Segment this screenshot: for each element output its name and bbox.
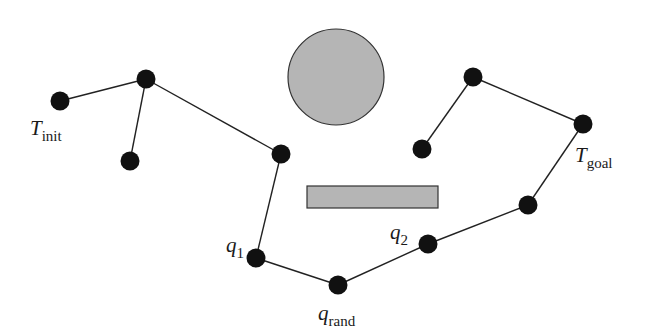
tree-edge — [256, 154, 281, 258]
tree-edge — [428, 205, 528, 244]
rrt-diagram: Tinit Tgoal q1 q2 qrand — [0, 0, 647, 333]
label-main: q — [318, 301, 329, 325]
label-t-init: Tinit — [30, 118, 62, 139]
label-main: T — [30, 116, 42, 140]
obstacles — [288, 29, 438, 208]
label-q2: q2 — [390, 222, 408, 243]
rect-obstacle — [307, 186, 438, 208]
label-sub: 1 — [237, 245, 245, 261]
label-sub: init — [42, 128, 62, 144]
tree-node-n3 — [272, 145, 291, 164]
tree-edge — [422, 77, 473, 149]
label-main: q — [226, 233, 237, 257]
label-q-rand: qrand — [318, 303, 355, 324]
tree-node-n8 — [574, 115, 593, 134]
tree-node-qrand — [329, 276, 348, 295]
tree-node-n7 — [519, 196, 538, 215]
tree-edge — [473, 77, 583, 124]
tree-node-q1 — [247, 249, 266, 268]
label-t-goal: Tgoal — [575, 145, 613, 166]
tree-edge — [338, 244, 428, 285]
label-main: q — [390, 220, 401, 244]
diagram-graphics — [0, 0, 647, 333]
tree-node-n10 — [413, 140, 432, 159]
tree-edge — [130, 79, 146, 161]
label-main: T — [575, 143, 587, 167]
tree-edge — [146, 79, 281, 154]
tree-node-q2 — [419, 235, 438, 254]
label-q1: q1 — [226, 235, 244, 256]
label-sub: rand — [329, 313, 356, 329]
tree-node-n1 — [137, 70, 156, 89]
tree-edge — [60, 79, 146, 101]
tree-node-n2 — [121, 152, 140, 171]
tree-node-n9 — [464, 68, 483, 87]
label-sub: 2 — [401, 232, 409, 248]
circle-obstacle — [288, 29, 384, 125]
tree-node-n0 — [51, 92, 70, 111]
tree-edge — [256, 258, 338, 285]
label-sub: goal — [587, 155, 613, 171]
